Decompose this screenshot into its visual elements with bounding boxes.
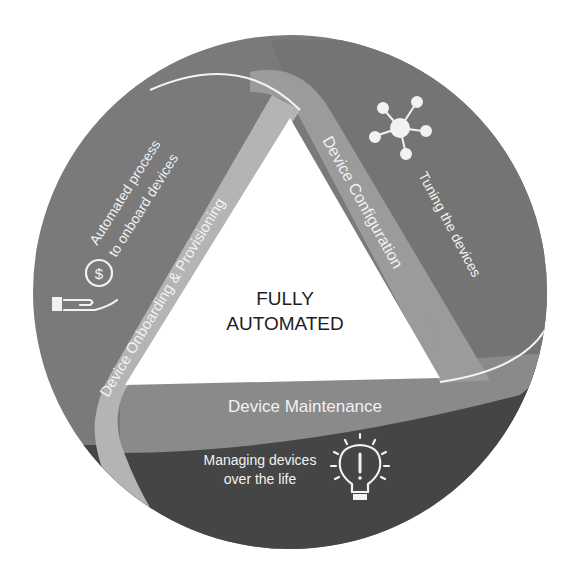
ribbon-label-maintenance: Device Maintenance bbox=[228, 397, 382, 416]
description-maintenance-line2: over the life bbox=[224, 471, 297, 487]
lifecycle-diagram: FULLY AUTOMATED Device Onboarding & Prov… bbox=[0, 0, 579, 579]
center-label-line2: AUTOMATED bbox=[226, 313, 344, 334]
description-maintenance-line1: Managing devices bbox=[204, 452, 317, 468]
center-label-line1: FULLY bbox=[256, 288, 314, 309]
svg-text:$: $ bbox=[95, 265, 104, 282]
